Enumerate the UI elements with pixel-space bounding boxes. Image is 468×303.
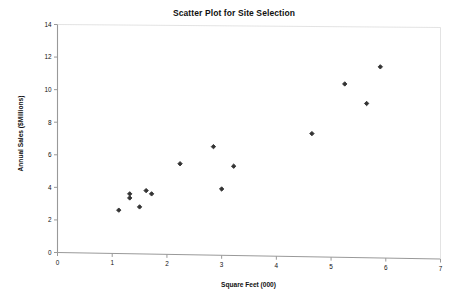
y-tick-label: 12: [44, 53, 52, 60]
y-tick-label: 14: [44, 21, 52, 28]
data-point-marker: [364, 101, 368, 105]
data-point-marker: [144, 188, 148, 192]
x-axis-line: [58, 253, 441, 260]
x-tick-label: 4: [275, 262, 279, 269]
data-point-marker: [149, 192, 153, 196]
plot-area: 0246810121401234567: [0, 0, 468, 303]
y-tick-label: 8: [48, 119, 52, 126]
data-point-marker: [117, 208, 121, 212]
data-point-marker: [310, 131, 314, 135]
data-point-marker: [211, 144, 215, 148]
data-points-group: [117, 65, 383, 213]
y-tick-label: 0: [48, 249, 52, 256]
plot-top-border: [58, 25, 441, 28]
x-tick-label: 6: [384, 264, 388, 271]
x-tick-label: 0: [56, 259, 60, 266]
x-tick-label: 5: [329, 263, 333, 270]
y-tick-label: 10: [44, 86, 52, 93]
data-point-marker: [178, 162, 182, 166]
data-point-marker: [128, 196, 132, 200]
x-tick-label: 7: [439, 265, 443, 272]
scatter-chart: Scatter Plot for Site Selection Annual S…: [0, 0, 468, 303]
tick-labels-group: 0246810121401234567: [44, 21, 442, 272]
x-tick-label: 2: [165, 260, 169, 267]
data-point-marker: [219, 187, 223, 191]
data-point-marker: [137, 205, 141, 209]
data-point-marker: [343, 82, 347, 86]
x-tick-label: 3: [220, 261, 224, 268]
data-point-marker: [378, 65, 382, 69]
axes-group: [58, 25, 441, 260]
data-point-marker: [231, 164, 235, 168]
y-tick-label: 6: [48, 151, 52, 158]
x-tick-label: 1: [110, 259, 114, 266]
tick-marks-group: [54, 25, 441, 263]
y-tick-label: 4: [48, 184, 52, 191]
y-tick-label: 2: [48, 216, 52, 223]
